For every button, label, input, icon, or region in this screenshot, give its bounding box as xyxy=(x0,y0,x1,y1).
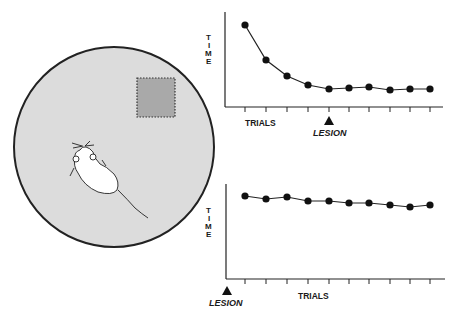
hidden-platform xyxy=(137,78,175,117)
bottom-chart: T I M E TRIALS LESION xyxy=(205,184,445,308)
top-x-ticks xyxy=(245,107,430,112)
bottom-lesion-label: LESION xyxy=(209,298,243,308)
top-lesion-label: LESION xyxy=(313,128,347,138)
svg-text:E: E xyxy=(206,57,212,66)
figure: T I M E TRIALS LESION T I xyxy=(0,0,455,319)
top-x-axis-label: TRIALS xyxy=(245,118,276,128)
water-maze-arena xyxy=(14,47,214,247)
top-chart: T I M E TRIALS LESION xyxy=(205,12,443,138)
top-lesion-marker-icon xyxy=(324,116,334,125)
svg-text:E: E xyxy=(206,230,212,239)
top-series-line xyxy=(245,25,430,90)
top-series-points xyxy=(241,21,433,93)
top-y-axis-label: T I M E xyxy=(205,33,212,66)
bottom-x-ticks xyxy=(245,279,430,284)
bottom-x-axis-label: TRIALS xyxy=(298,291,329,301)
bottom-lesion-marker-icon xyxy=(222,286,232,295)
bottom-series-line xyxy=(245,196,430,207)
arena-pool xyxy=(14,47,214,247)
bottom-y-axis-label: T I M E xyxy=(205,206,212,239)
